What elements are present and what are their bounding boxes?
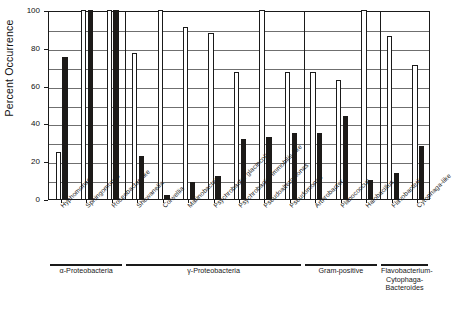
bar [113, 10, 118, 199]
group-bracket-label: γ-Proteobacteria [126, 267, 300, 276]
y-tick-label: 20 [14, 158, 40, 166]
bar [208, 33, 213, 199]
bar [62, 57, 67, 199]
y-tick-label: 100 [14, 7, 40, 15]
bar [317, 133, 322, 199]
y-axis-title: Percent Occurrence [3, 3, 15, 133]
bar [107, 10, 112, 199]
bar [292, 133, 297, 199]
bar [266, 137, 271, 199]
bar [81, 10, 86, 199]
bar [387, 36, 392, 199]
bar [158, 10, 163, 199]
group-bracket-label: Gram-positive [305, 267, 377, 276]
bar [259, 10, 264, 199]
group-bracket-label: α-Proteobacteria [50, 267, 122, 276]
bar [88, 10, 93, 199]
taxonomic-group-brackets: α-Proteobacteriaγ-ProteobacteriaGram-pos… [0, 264, 440, 311]
plot-area [48, 11, 430, 200]
group-bracket-label: Flavobacterium-Cytophaga-Bacteroides [381, 267, 428, 293]
bars-layer [49, 12, 429, 199]
bar [56, 152, 61, 199]
bar [361, 10, 366, 199]
bar [343, 116, 348, 199]
bar [183, 27, 188, 199]
bar [419, 146, 424, 199]
y-tick-label: 80 [14, 45, 40, 53]
x-axis-labels: HyphomonasSphingomonasRoseobacter-likeSh… [0, 200, 440, 262]
y-tick-label: 40 [14, 120, 40, 128]
y-tick-label: 60 [14, 83, 40, 91]
